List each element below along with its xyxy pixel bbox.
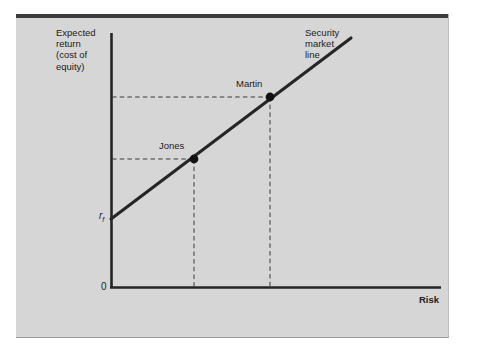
data-point-jones[interactable] [190,155,199,164]
security-market-line-label: Security market line [305,27,339,61]
data-point-label-martin: Martin [236,78,262,89]
risk-free-rate-tick-label: rf [99,210,104,225]
data-point-label-jones: Jones [159,140,184,151]
y-axis-label: Expected return (cost of equity) [56,27,96,72]
risk-free-rate-subscript: f [102,216,104,223]
security-market-line [111,38,351,219]
security-market-line-chart: Expected return (cost of equity) Securit… [0,0,479,351]
data-point-martin[interactable] [266,93,275,102]
origin-tick-label: 0 [101,281,107,292]
x-axis-label: Risk [419,294,439,305]
figure-canvas: Expected return (cost of equity) Securit… [0,0,479,351]
